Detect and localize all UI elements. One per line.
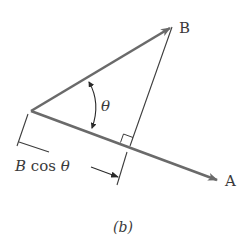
vector-b-label: B: [179, 19, 190, 37]
projection-label-cos: cos: [31, 157, 61, 175]
projection-guide-left: [19, 142, 49, 152]
projection-label-b: B: [14, 157, 26, 175]
projection-tick-right: [117, 152, 127, 185]
projection-diagram: B A θ B cos θ (b): [0, 0, 250, 246]
projection-pointer-arrow: [91, 167, 118, 177]
projection-tick-left: [17, 114, 28, 146]
projection-label: B cos θ: [14, 157, 70, 175]
perpendicular-line: [130, 27, 172, 146]
angle-arc: [89, 82, 96, 128]
vector-a-label: A: [224, 172, 236, 190]
angle-theta-label: θ: [101, 97, 110, 115]
figure-caption: (b): [113, 219, 133, 235]
projection-label-theta: θ: [61, 157, 70, 175]
